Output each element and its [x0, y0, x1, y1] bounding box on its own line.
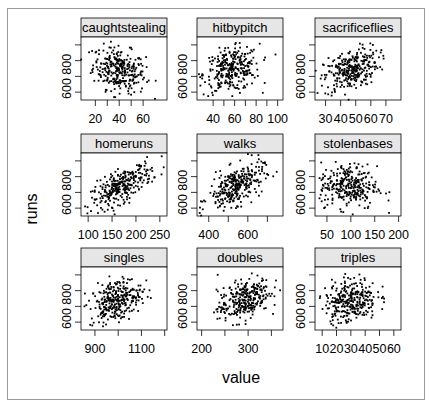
panel-title: walks [223, 136, 257, 151]
x-tick-label: 60 [228, 112, 242, 126]
x-tick-label: 60 [136, 112, 150, 126]
x-tick-label: 300 [238, 342, 259, 356]
x-tick-label: 100 [78, 228, 99, 242]
plot-area [197, 267, 283, 330]
panel-stolenbases: stolenbases600 80050100150200 [294, 134, 409, 242]
trellis-scatter-chart: runs value caughtstealing600 800204060hi… [0, 0, 431, 407]
y-tick-labels: 600 800 [60, 170, 74, 215]
x-tick-label: 70 [379, 112, 393, 126]
x-tick-label: 250 [149, 228, 170, 242]
x-tick-label: 30 [319, 112, 333, 126]
x-tick-label: 900 [85, 342, 106, 356]
x-tick-label: 40 [112, 112, 126, 126]
x-tick-label: 40 [358, 342, 372, 356]
y-tick-labels: 600 800 [60, 284, 74, 329]
y-tick-labels: 600 800 [294, 284, 308, 329]
x-tick-label: 20 [330, 342, 344, 356]
panel-title: caughtstealing [82, 20, 166, 35]
panel-title: hitbypitch [213, 20, 268, 35]
y-tick-labels: 600 800 [176, 170, 190, 215]
panel-caughtstealing: caughtstealing600 800204060 [60, 18, 167, 126]
x-tick-label: 40 [334, 112, 348, 126]
x-tick-label: 600 [237, 228, 258, 242]
panel-title: doubles [217, 250, 263, 265]
panel-homeruns: homeruns600 800100150200250 [60, 134, 170, 242]
panel-title: singles [104, 250, 145, 265]
panel-title: triples [341, 250, 376, 265]
x-axis-label: value [222, 369, 260, 386]
x-tick-label: 1100 [128, 342, 155, 356]
x-tick-label: 200 [126, 228, 147, 242]
panel-singles: singles600 8009001100 [60, 248, 167, 356]
panel-title: sacrificeflies [323, 20, 394, 35]
x-tick-label: 200 [191, 342, 212, 356]
x-tick-label: 60 [387, 342, 401, 356]
x-tick-label: 100 [340, 228, 361, 242]
x-tick-label: 400 [198, 228, 219, 242]
panels-group: caughtstealing600 800204060hitbypitch600… [60, 18, 409, 356]
panel-doubles: doubles600 800200300 [176, 248, 283, 356]
y-tick-labels: 600 800 [176, 284, 190, 329]
x-tick-label: 30 [344, 342, 358, 356]
panel-title: homeruns [95, 136, 153, 151]
panel-title: stolenbases [323, 136, 393, 151]
x-tick-label: 100 [267, 112, 288, 126]
x-tick-label: 60 [364, 112, 378, 126]
panel-hitbypitch: hitbypitch600 800406080100 [176, 18, 288, 126]
y-axis-label: runs [23, 193, 40, 224]
x-tick-label: 80 [249, 112, 263, 126]
x-tick-label: 20 [88, 112, 102, 126]
panel-triples: triples600 800102030405060 [294, 248, 401, 356]
x-tick-label: 40 [206, 112, 220, 126]
x-tick-label: 200 [388, 228, 409, 242]
x-tick-label: 150 [102, 228, 123, 242]
y-tick-labels: 600 800 [294, 170, 308, 215]
y-tick-labels: 600 800 [60, 54, 74, 99]
x-tick-label: 150 [364, 228, 385, 242]
y-tick-labels: 600 800 [176, 54, 190, 99]
x-tick-label: 50 [373, 342, 387, 356]
x-tick-label: 10 [315, 342, 329, 356]
panel-sacrificeflies: sacrificeflies600 8003040506070 [294, 18, 401, 126]
x-tick-label: 50 [320, 228, 334, 242]
x-tick-label: 50 [349, 112, 363, 126]
panel-walks: walks600 800400600 [176, 134, 283, 242]
y-tick-labels: 600 800 [294, 54, 308, 99]
